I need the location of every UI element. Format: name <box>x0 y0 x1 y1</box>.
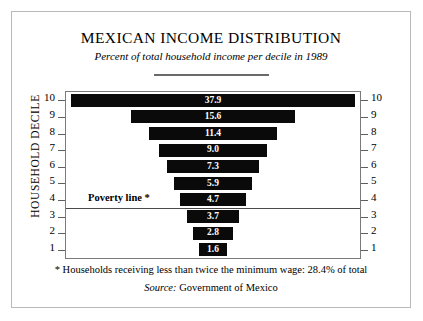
source-line: Source: Government of Mexico <box>12 282 410 293</box>
tick-mark-right <box>361 134 368 135</box>
source-text: Government of Mexico <box>179 282 278 293</box>
bar-value-label: 11.4 <box>205 129 221 139</box>
poverty-line <box>66 208 360 209</box>
footnote-text: * Households receiving less than twice t… <box>12 264 410 275</box>
tick-mark-left <box>58 100 65 101</box>
y-axis-label-right: 2 <box>371 225 377 236</box>
bar-decile-9: 15.6 <box>131 110 295 123</box>
source-label: Source: <box>144 282 176 293</box>
poverty-line-label: Poverty line * <box>88 192 150 203</box>
y-axis-label-left: 9 <box>50 109 56 120</box>
plot-area: 101037.99915.68811.4779.0667.3555.9444.7… <box>65 91 361 259</box>
bar-slot: 2.8 <box>66 225 360 242</box>
tick-mark-right <box>361 200 368 201</box>
tick-mark-left <box>58 233 65 234</box>
tick-mark-right <box>361 217 368 218</box>
bar-slot: 7.3 <box>66 158 360 175</box>
bar-decile-3: 3.7 <box>187 210 239 223</box>
bar-decile-5: 5.9 <box>174 177 252 190</box>
bar-value-label: 7.3 <box>207 162 219 172</box>
tick-mark-left <box>58 167 65 168</box>
bar-slot: 15.6 <box>66 109 360 126</box>
y-axis-label-left: 7 <box>50 142 56 153</box>
bar-slot: 3.7 <box>66 208 360 225</box>
bar-slot: 9.0 <box>66 142 360 159</box>
tick-mark-right <box>361 233 368 234</box>
y-axis-label-right: 4 <box>371 192 377 203</box>
tick-mark-right <box>361 100 368 101</box>
bar-slot: 5.9 <box>66 175 360 192</box>
tick-mark-left <box>58 150 65 151</box>
y-axis-title: HOUSEHOLD DECILE <box>29 76 41 236</box>
y-axis-label-right: 7 <box>371 142 377 153</box>
bar-decile-8: 11.4 <box>149 127 277 140</box>
y-axis-label-left: 1 <box>50 242 56 253</box>
bar-value-label: 4.7 <box>207 195 219 205</box>
bar-value-label: 3.7 <box>207 212 219 222</box>
y-axis-label-right: 3 <box>371 209 377 220</box>
tick-mark-left <box>58 217 65 218</box>
bar-value-label: 2.8 <box>207 228 219 238</box>
title-divider <box>154 74 269 76</box>
bar-slot: 1.6 <box>66 241 360 258</box>
bar-value-label: 1.6 <box>207 245 219 255</box>
bar-decile-1: 1.6 <box>199 243 227 256</box>
y-axis-label-right: 1 <box>371 242 377 253</box>
tick-mark-left <box>58 134 65 135</box>
chart-figure: MEXICAN INCOME DISTRIBUTION Percent of t… <box>11 11 411 308</box>
tick-mark-left <box>58 183 65 184</box>
y-axis-label-left: 4 <box>50 192 56 203</box>
tick-mark-left <box>58 117 65 118</box>
chart-subtitle: Percent of total household income per de… <box>12 50 410 62</box>
tick-mark-right <box>361 117 368 118</box>
tick-mark-right <box>361 183 368 184</box>
bar-decile-4: 4.7 <box>180 193 246 206</box>
tick-mark-left <box>58 250 65 251</box>
tick-mark-left <box>58 200 65 201</box>
bar-decile-7: 9.0 <box>159 144 267 157</box>
bar-decile-10: 37.9 <box>71 94 355 107</box>
y-axis-label-left: 2 <box>50 225 56 236</box>
tick-mark-right <box>361 250 368 251</box>
y-axis-label-left: 10 <box>44 92 55 103</box>
y-axis-label-right: 10 <box>371 92 382 103</box>
bar-value-label: 37.9 <box>205 96 222 106</box>
y-axis-label-right: 9 <box>371 109 377 120</box>
bar-decile-6: 7.3 <box>167 160 259 173</box>
bar-value-label: 5.9 <box>207 179 219 189</box>
y-axis-label-right: 8 <box>371 126 377 137</box>
chart-title: MEXICAN INCOME DISTRIBUTION <box>12 29 410 47</box>
tick-mark-right <box>361 167 368 168</box>
y-axis-label-left: 5 <box>50 175 56 186</box>
bar-slot: 11.4 <box>66 125 360 142</box>
bar-value-label: 9.0 <box>207 145 219 155</box>
y-axis-label-left: 8 <box>50 126 56 137</box>
y-axis-label-right: 5 <box>371 175 377 186</box>
y-axis-label-right: 6 <box>371 159 377 170</box>
y-axis-label-left: 6 <box>50 159 56 170</box>
bar-value-label: 15.6 <box>205 112 222 122</box>
tick-mark-right <box>361 150 368 151</box>
y-axis-label-left: 3 <box>50 209 56 220</box>
bar-decile-2: 2.8 <box>193 227 233 240</box>
bar-slot: 37.9 <box>66 92 360 109</box>
